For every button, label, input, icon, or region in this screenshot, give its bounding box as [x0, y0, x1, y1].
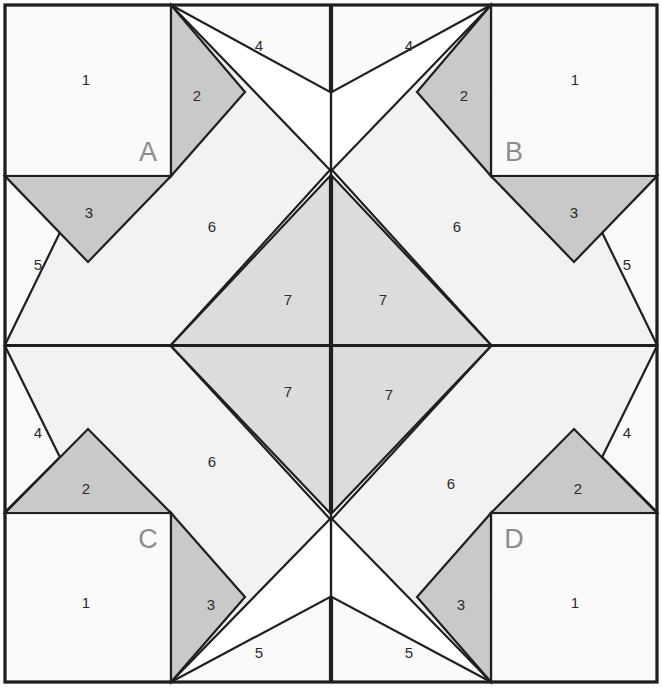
section-label-c: C — [138, 524, 158, 554]
piece-label-b-2: 2 — [460, 87, 468, 104]
piece-label-a-5: 5 — [34, 256, 42, 273]
piece-label-c-4: 4 — [34, 424, 42, 441]
piece-label-a-4: 4 — [255, 37, 263, 54]
piece-label-d-7: 7 — [385, 386, 393, 403]
piece-label-c-6: 6 — [208, 453, 216, 470]
section-label-a: A — [139, 137, 157, 167]
quilt-block-svg: 1 2 3 4 5 6 7 A 1 2 3 4 5 6 7 B — [0, 0, 662, 693]
piece-label-c-7: 7 — [284, 383, 292, 400]
section-label-b: B — [505, 137, 523, 167]
section-a: 1 2 3 4 5 6 7 A — [5, 5, 330, 345]
piece-label-c-3: 3 — [207, 596, 215, 613]
section-c: 1 2 3 4 5 6 7 C — [5, 346, 330, 682]
piece-label-b-1: 1 — [571, 71, 579, 88]
piece-label-d-1: 1 — [571, 594, 579, 611]
piece-label-d-3: 3 — [457, 596, 465, 613]
piece-label-d-6: 6 — [447, 475, 455, 492]
piece-label-d-5: 5 — [405, 644, 413, 661]
piece-label-a-6: 6 — [208, 218, 216, 235]
piece-label-c-1: 1 — [82, 594, 90, 611]
piece-label-d-2: 2 — [574, 480, 582, 497]
piece-label-b-5: 5 — [623, 256, 631, 273]
piece-label-b-4: 4 — [405, 37, 413, 54]
piece-label-b-6: 6 — [453, 218, 461, 235]
piece-label-c-2: 2 — [82, 480, 90, 497]
quilt-block-diagram: 1 2 3 4 5 6 7 A 1 2 3 4 5 6 7 B — [0, 0, 662, 693]
piece-label-b-3: 3 — [570, 204, 578, 221]
piece-label-a-3: 3 — [85, 204, 93, 221]
section-d: 1 2 3 4 5 6 7 D — [332, 346, 657, 682]
piece-label-a-7: 7 — [284, 291, 292, 308]
section-b: 1 2 3 4 5 6 7 B — [332, 5, 657, 345]
piece-label-b-7: 7 — [379, 291, 387, 308]
section-label-d: D — [504, 524, 524, 554]
piece-label-d-4: 4 — [623, 424, 631, 441]
piece-label-a-2: 2 — [193, 87, 201, 104]
piece-label-c-5: 5 — [255, 644, 263, 661]
piece-label-a-1: 1 — [82, 71, 90, 88]
